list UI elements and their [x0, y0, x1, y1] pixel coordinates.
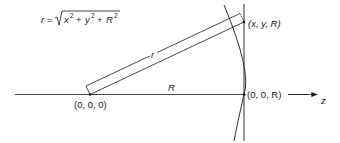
formula-plus-2: +	[97, 14, 103, 25]
r-dimension: r	[86, 14, 244, 95]
sphere-arc	[224, 5, 246, 141]
formula-R: R	[106, 14, 113, 25]
label-origin: (0, 0, 0)	[74, 99, 107, 110]
formula-lhs: r	[41, 14, 45, 25]
label-xyR: (x, y, R)	[248, 18, 281, 29]
formula-x-exp: 2	[70, 12, 74, 19]
formula-y-exp: 2	[91, 12, 95, 19]
origin-point	[89, 93, 92, 96]
distance-formula: r = x 2 + y 2 + R 2	[41, 11, 120, 25]
00R-point	[243, 93, 246, 96]
label-R: R	[168, 82, 175, 93]
formula-R-exp: 2	[114, 12, 118, 19]
formula-y: y	[84, 14, 91, 25]
formula-plus-1: +	[76, 14, 82, 25]
formula-equals: =	[47, 14, 53, 25]
r-line	[90, 22, 244, 95]
xyR-point	[243, 21, 246, 24]
geometry-diagram: r = x 2 + y 2 + R 2 r (x, y, R) (0, 0, 0…	[0, 0, 340, 143]
label-z: z	[320, 95, 326, 106]
r-box-end-left	[86, 86, 90, 95]
label-00R: (0, 0, R)	[247, 89, 281, 100]
formula-x: x	[63, 14, 70, 25]
r-box-end-right	[240, 14, 244, 23]
